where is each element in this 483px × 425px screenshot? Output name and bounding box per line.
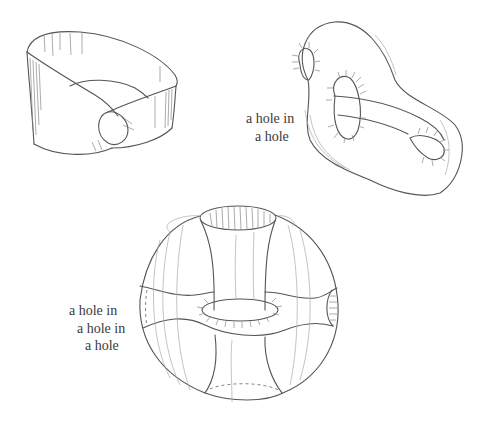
knotted-torus-figure — [292, 22, 462, 195]
topology-illustration — [0, 0, 483, 425]
nested-torus-sphere-figure — [140, 206, 338, 402]
caption-nested-line-3: a hole — [85, 337, 119, 354]
caption-hole-in-hole-line-1: a hole in — [246, 110, 294, 127]
caption-nested-line-2: a hole in — [77, 320, 125, 337]
caption-hole-in-hole-line-2: a hole — [255, 128, 289, 145]
mobius-band-figure — [27, 32, 177, 155]
caption-nested-line-1: a hole in — [69, 302, 117, 319]
